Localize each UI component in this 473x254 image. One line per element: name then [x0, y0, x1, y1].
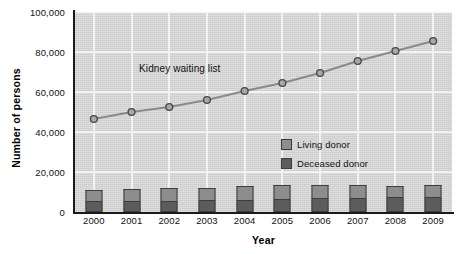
- kidney-transplant-chart-figure: Kidney waiting list Living donor Decease…: [0, 0, 473, 254]
- x-axis-tick-label: 2006: [309, 215, 331, 226]
- line-marker: [204, 97, 211, 104]
- y-axis-tick-label: 100,000: [30, 7, 65, 18]
- y-axis-tick-label: 20,000: [35, 167, 65, 178]
- kidney-waiting-list-line-series: [75, 12, 452, 212]
- line-marker: [279, 80, 286, 87]
- legend-item-living-donor: Living donor: [281, 137, 368, 152]
- line-marker: [354, 58, 361, 65]
- legend-swatch-deceased-donor: [281, 158, 292, 169]
- y-axis-tick-label: 0: [60, 207, 65, 218]
- x-axis-tick-label: 2002: [158, 215, 180, 226]
- line-path: [94, 41, 433, 119]
- legend-item-deceased-donor: Deceased donor: [281, 156, 368, 171]
- line-marker: [241, 88, 248, 95]
- x-axis-tick-label: 2008: [385, 215, 407, 226]
- y-axis-line: [73, 10, 75, 214]
- line-marker: [128, 109, 135, 116]
- x-axis-tick-labels: 2000200120022003200420052006200720082009: [75, 215, 452, 231]
- line-marker: [317, 70, 324, 77]
- x-axis-line: [73, 212, 454, 214]
- line-marker: [90, 116, 97, 123]
- line-marker: [166, 104, 173, 111]
- x-axis-tick-label: 2001: [121, 215, 143, 226]
- legend-label-deceased-donor: Deceased donor: [297, 158, 368, 169]
- chart-legend: Living donor Deceased donor: [281, 137, 368, 175]
- y-axis-tick-label: 60,000: [35, 87, 65, 98]
- x-axis-title: Year: [75, 234, 452, 246]
- line-marker: [392, 48, 399, 55]
- series-annotation-kidney-waiting-list: Kidney waiting list: [139, 63, 220, 74]
- x-axis-tick-label: 2009: [422, 215, 444, 226]
- plot-area: Kidney waiting list Living donor Decease…: [75, 12, 452, 212]
- x-axis-tick-label: 2004: [234, 215, 256, 226]
- x-axis-tick-label: 2003: [196, 215, 218, 226]
- legend-label-living-donor: Living donor: [297, 139, 350, 150]
- x-axis-tick-label: 2005: [272, 215, 294, 226]
- legend-swatch-living-donor: [281, 139, 292, 150]
- y-axis-tick-label: 40,000: [35, 127, 65, 138]
- x-axis-tick-label: 2000: [83, 215, 105, 226]
- line-marker: [430, 38, 437, 45]
- y-axis-tick-label: 80,000: [35, 47, 65, 58]
- x-axis-tick-label: 2007: [347, 215, 369, 226]
- y-axis-title: Number of persons: [10, 53, 22, 183]
